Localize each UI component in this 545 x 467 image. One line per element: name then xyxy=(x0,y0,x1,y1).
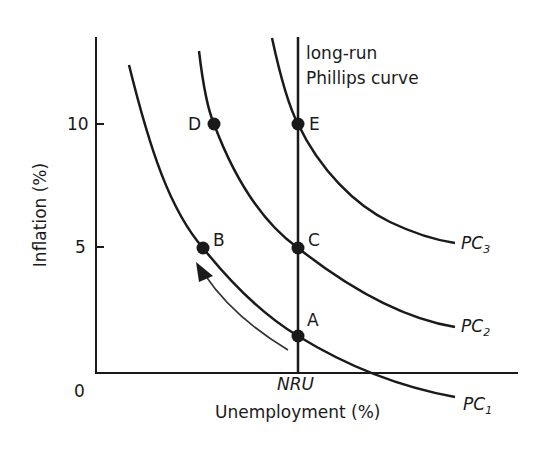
y-tick-label-10: 10 xyxy=(67,116,89,133)
point-a-label: A xyxy=(307,312,319,329)
curve-label-pc2: PC2 xyxy=(461,318,490,338)
x-tick-label-nru: NRU xyxy=(277,376,314,393)
movement-arrow xyxy=(205,275,288,350)
curve-label-pc1-sub: 1 xyxy=(485,404,492,417)
point-e-label: E xyxy=(309,116,320,133)
point-e-marker xyxy=(292,118,305,131)
curve-label-pc3: PC3 xyxy=(461,235,490,255)
curve-pc1 xyxy=(129,65,455,397)
y-axis-label: Inflation (%) xyxy=(30,163,50,267)
point-a-marker xyxy=(292,330,305,343)
curve-label-pc2-sub: 2 xyxy=(483,326,490,339)
curve-label-pc1-main: PC xyxy=(463,394,485,414)
point-d-label: D xyxy=(188,116,201,133)
curve-label-pc2-main: PC xyxy=(461,316,483,336)
curve-label-pc1: PC1 xyxy=(463,396,492,416)
point-c-marker xyxy=(292,242,305,255)
x-axis-label: Unemployment (%) xyxy=(215,404,381,421)
lrpc-label-line2: Phillips curve xyxy=(306,70,419,87)
lrpc-label-line1: long-run xyxy=(306,45,377,62)
point-b-marker xyxy=(197,242,210,255)
arrow-head-icon xyxy=(196,262,213,282)
point-b-label: B xyxy=(213,232,225,249)
curve-label-pc3-main: PC xyxy=(461,233,483,253)
origin-label: 0 xyxy=(74,383,85,400)
curve-label-pc3-sub: 3 xyxy=(483,243,490,256)
point-d-marker xyxy=(208,118,221,131)
y-tick-label-5: 5 xyxy=(75,239,86,256)
point-c-label: C xyxy=(308,232,320,249)
